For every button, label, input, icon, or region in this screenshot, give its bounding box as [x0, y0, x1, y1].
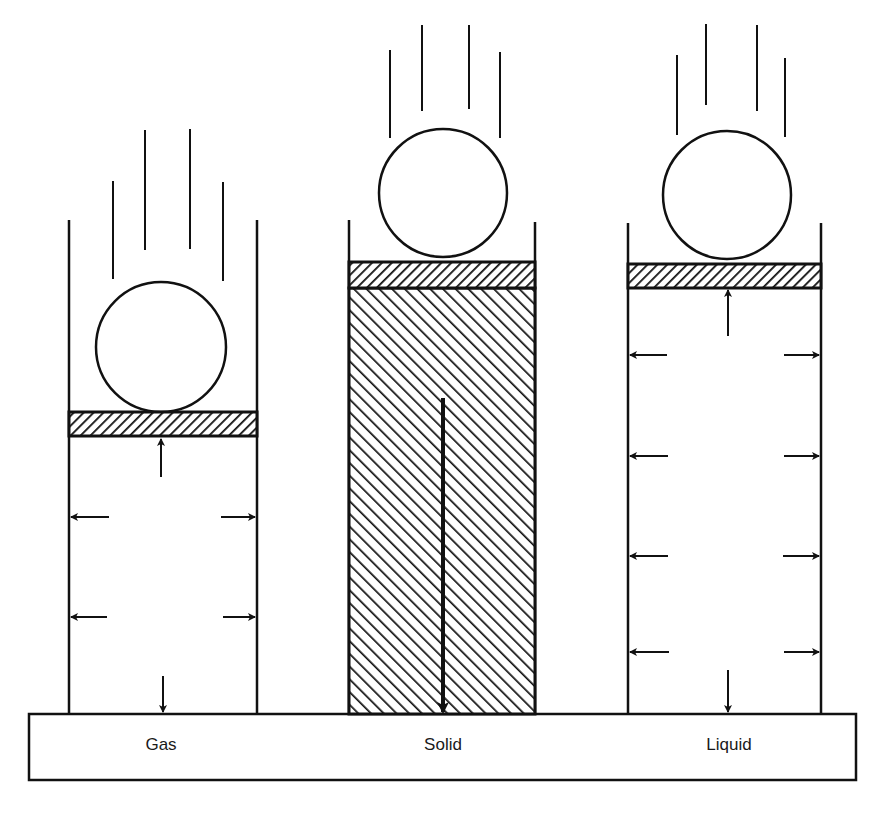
liquid-label: Liquid: [706, 735, 751, 755]
pressure-diagram: [0, 0, 876, 817]
solid-container: [349, 25, 535, 714]
liquid-piston: [628, 264, 821, 288]
gas-piston: [69, 412, 257, 436]
solid-label: Solid: [424, 735, 462, 755]
gas-container: [69, 129, 257, 714]
solid-ball: [379, 129, 507, 257]
liquid-ball: [663, 131, 791, 259]
solid-piston: [349, 262, 535, 288]
gas-label: Gas: [145, 735, 176, 755]
liquid-container: [628, 24, 821, 714]
gas-ball: [96, 282, 226, 412]
